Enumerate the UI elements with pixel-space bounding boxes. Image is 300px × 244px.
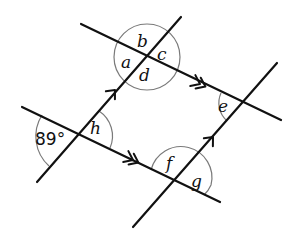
label-b: b [137,31,148,51]
label-g: g [191,171,202,191]
label-f: f [164,153,175,173]
label-d: d [139,65,150,85]
top-parallel-line [81,24,281,120]
arc-h [99,111,112,148]
label-h: h [90,118,101,138]
double-arrow-icon-bottom [123,151,141,168]
angle-arcs [36,24,227,195]
label-e: e [218,96,228,116]
lines [22,17,281,227]
angle-labels: a b c d e f g h 89° [35,31,228,191]
left-transversal-line [37,17,181,182]
label-89-degrees: 89° [35,129,65,149]
single-arrow-icon-left [106,86,120,99]
angle-diagram: a b c d e f g h 89° [0,0,300,244]
label-a: a [121,52,131,72]
label-c: c [157,44,167,64]
